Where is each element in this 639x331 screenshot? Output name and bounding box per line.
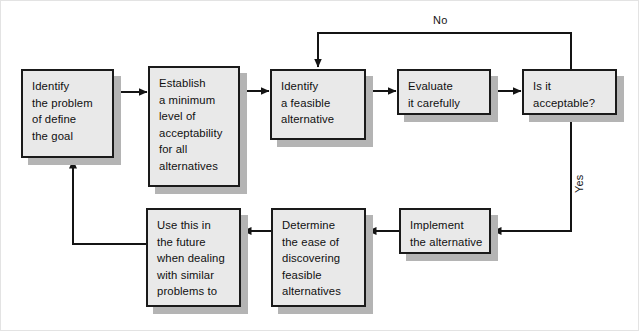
node-line: Is it bbox=[533, 78, 615, 95]
node-line: Establish bbox=[159, 75, 238, 92]
edge-label-no: No bbox=[433, 14, 447, 26]
node-line: level of bbox=[159, 108, 238, 125]
node-line: the alternative bbox=[410, 234, 489, 251]
node-line: Use this in bbox=[157, 217, 239, 234]
node-line: Determine bbox=[282, 217, 364, 234]
connector-yes-to-implement bbox=[493, 115, 571, 231]
node-line: a feasible bbox=[281, 95, 364, 112]
node-line: a minimum bbox=[159, 92, 238, 109]
node-line: Evaluate bbox=[408, 78, 489, 95]
node-line: when dealing bbox=[157, 250, 239, 267]
flowchart-canvas: Identify the problem of define the goal … bbox=[0, 0, 639, 331]
node-line: the problem bbox=[32, 95, 112, 112]
edge-label-yes: Yes bbox=[573, 174, 585, 193]
connector-usethis-to-problem bbox=[73, 160, 146, 244]
node-line: Implement bbox=[410, 217, 489, 234]
node-identify-feasible[interactable]: Identify a feasible alternative bbox=[270, 69, 366, 140]
node-line: feasible bbox=[282, 267, 364, 284]
node-line: for all bbox=[159, 141, 238, 158]
node-line: with similar bbox=[157, 267, 239, 284]
node-line: it carefully bbox=[408, 95, 489, 112]
node-line: of define bbox=[32, 111, 112, 128]
node-line: the goal bbox=[32, 128, 112, 145]
node-evaluate-carefully[interactable]: Evaluate it carefully bbox=[397, 69, 491, 115]
node-line: acceptability bbox=[159, 125, 238, 142]
node-line: discovering bbox=[282, 250, 364, 267]
node-line: the future bbox=[157, 234, 239, 251]
node-implement-alternative[interactable]: Implement the alternative bbox=[399, 208, 491, 254]
node-determine-ease[interactable]: Determine the ease of discovering feasib… bbox=[271, 208, 366, 307]
node-is-it-acceptable[interactable]: Is it acceptable? bbox=[522, 69, 617, 115]
node-establish-minimum[interactable]: Establish a minimum level of acceptabili… bbox=[148, 66, 240, 187]
node-use-this-future[interactable]: Use this in the future when dealing with… bbox=[146, 208, 241, 307]
node-line: alternative bbox=[281, 111, 364, 128]
node-line: acceptable? bbox=[533, 95, 615, 112]
connector-no-loop-back bbox=[318, 33, 571, 69]
node-line: Identify bbox=[32, 78, 112, 95]
node-line: alternatives bbox=[159, 158, 238, 175]
node-line: alternatives bbox=[282, 283, 364, 300]
node-line: Identify bbox=[281, 78, 364, 95]
node-line: problems to bbox=[157, 283, 239, 300]
node-identify-problem[interactable]: Identify the problem of define the goal bbox=[21, 69, 114, 158]
node-line: the ease of bbox=[282, 234, 364, 251]
